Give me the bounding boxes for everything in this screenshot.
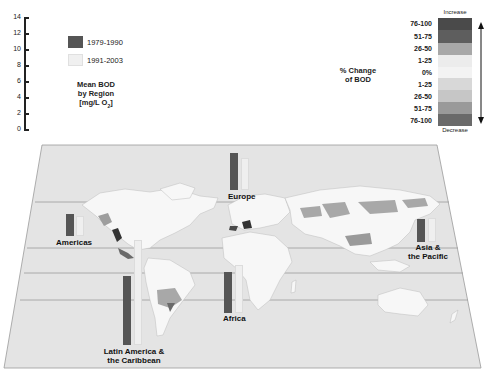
bar-americas-1979-1990 [66, 214, 74, 236]
bar-lac-1991-2003 [134, 240, 142, 345]
bar-asia-1991-2003 [428, 218, 436, 242]
region-label-asia-line2: the Pacific [404, 252, 452, 261]
bar-africa-1979-1990 [224, 272, 232, 313]
bar-lac-1979-1990 [123, 276, 131, 345]
region-label-americas: Americas [56, 238, 92, 247]
region-label-europe: Europe [228, 192, 256, 201]
region-label-africa: Africa [223, 314, 246, 323]
bar-asia-1979-1990 [417, 219, 425, 242]
bar-europe-1991-2003 [241, 158, 249, 190]
region-label-lac-line2: the Caribbean [100, 356, 168, 365]
region-label-latin-america: Latin America & the Caribbean [100, 347, 168, 365]
bar-europe-1979-1990 [230, 153, 238, 190]
region-label-asia-pacific: Asia & the Pacific [404, 243, 452, 261]
region-label-lac-line1: Latin America & [100, 347, 168, 356]
bar-americas-1991-2003 [76, 216, 84, 236]
bar-africa-1991-2003 [235, 265, 243, 313]
region-label-asia-line1: Asia & [404, 243, 452, 252]
